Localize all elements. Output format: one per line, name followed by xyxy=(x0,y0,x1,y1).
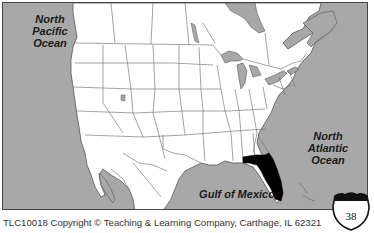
copyright-footer: TLC10018 Copyright © Teaching & Learning… xyxy=(3,217,321,228)
label-line: Ocean xyxy=(25,37,75,49)
great-salt-lake xyxy=(121,95,125,101)
label-line: Ocean xyxy=(299,154,357,166)
label-line: Atlantic xyxy=(299,142,357,154)
label-north-atlantic-ocean: North Atlantic Ocean xyxy=(299,130,357,166)
label-line: North xyxy=(25,13,75,25)
caribbean-islands xyxy=(299,183,315,201)
label-line: North xyxy=(299,130,357,142)
label-line: Pacific xyxy=(25,25,75,37)
map: North Pacific Ocean North Atlantic Ocean… xyxy=(2,2,368,210)
land-north-america xyxy=(71,3,333,210)
label-north-pacific-ocean: North Pacific Ocean xyxy=(25,13,75,49)
page-number: 38 xyxy=(331,210,371,222)
label-gulf-of-mexico: Gulf of Mexico xyxy=(197,188,277,200)
